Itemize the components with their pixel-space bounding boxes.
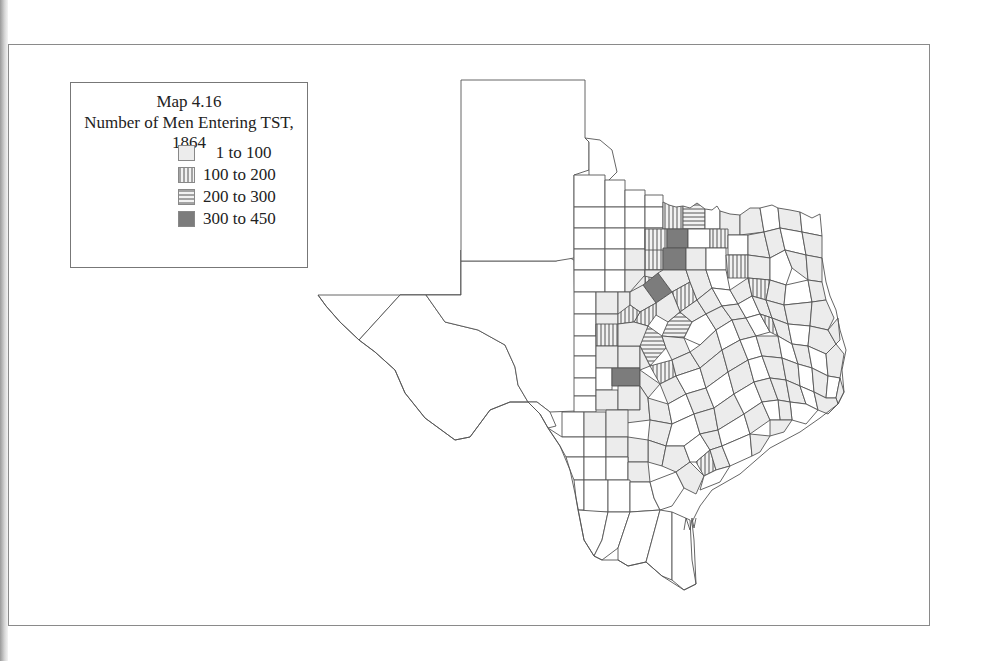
legend-label: 1 to 100 [203,143,271,163]
legend-label: 200 to 300 [203,187,276,207]
legend-items: 1 to 100 100 to 200 200 to 300 300 to 45… [178,142,276,230]
map-legend: Map 4.16 Number of Men Entering TST, 186… [70,82,308,268]
dark-fill-swatch-icon [178,211,195,227]
map-title: Map 4.16 [71,92,307,112]
county-panhandle [461,80,589,261]
legend-label: 300 to 450 [203,209,276,229]
county-el-paso-hudspeth [400,250,461,295]
horizontal-stripe-swatch-icon [178,189,195,205]
legend-item-300-450: 300 to 450 [178,208,276,230]
legend-item-200-300: 200 to 300 [178,186,276,208]
vertical-stripe-swatch-icon [178,167,195,183]
legend-item-1-100: 1 to 100 [178,142,276,164]
legend-label: 100 to 200 [203,165,276,185]
legend-item-100-200: 100 to 200 [178,164,276,186]
light-fill-swatch-icon [178,145,195,161]
